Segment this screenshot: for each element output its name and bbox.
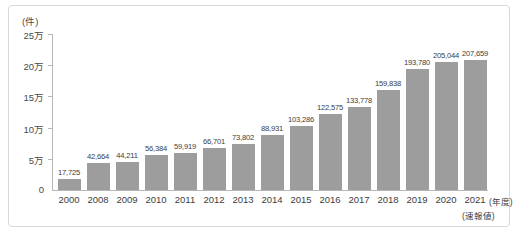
bar-group: 193,7802019 [402,0,433,247]
bar-group: 88,9312014 [257,0,288,247]
bar-group: 17,7252000 [54,0,85,247]
x-axis-tick-label: 2016 [319,194,340,205]
x-axis-tick-label: 2021 [464,194,485,205]
bar-group: 42,6642008 [83,0,114,247]
bar-value-label: 193,780 [404,58,430,67]
x-axis-tick-label: 2015 [290,194,311,205]
bar-value-label: 122,575 [317,103,343,112]
x-axis-tick-label: 2011 [175,194,195,205]
bar-value-label: 133,778 [346,96,372,105]
bar [348,107,371,190]
bar [464,60,487,190]
bar-value-label: 159,838 [375,79,401,88]
y-axis-tick-label: 0 [39,184,44,195]
bar [406,69,429,190]
bar-group: 122,5752016 [315,0,346,247]
bar [87,163,110,190]
y-axis-tick-label: 20万 [23,59,44,73]
bar-group: 44,2112009 [112,0,143,247]
bar-value-label: 59,919 [174,142,196,151]
bar-group: 103,2862015 [286,0,317,247]
bar-value-label: 56,384 [145,144,167,153]
y-axis-tick-label: 25万 [23,28,44,42]
bar [58,179,81,190]
x-axis-label: (年度) [489,195,513,207]
x-axis-note-preliminary: (速報値) [462,209,495,221]
x-axis-tick-label: 2020 [435,194,456,205]
bar-value-label: 207,659 [462,49,488,58]
bar [290,126,313,190]
x-axis-tick-label: 2019 [406,194,427,205]
bar-value-label: 42,664 [87,152,109,161]
y-axis-tick-label: 15万 [23,90,44,104]
y-axis-tick-label: 10万 [23,122,44,136]
bar-value-label: 88,931 [261,124,283,133]
bar [203,148,226,190]
bar-group: 73,8022013 [228,0,259,247]
bar-group: 66,7012012 [199,0,230,247]
bar-value-label: 66,701 [203,137,225,146]
bar-group: 159,8382018 [373,0,404,247]
bar-group: 59,9192011 [170,0,201,247]
bar [319,114,342,190]
x-axis-tick-label: 2014 [261,194,282,205]
bar-group: 56,3842010 [141,0,172,247]
x-axis-tick-label: 2008 [87,194,108,205]
bar [174,153,197,190]
bar-value-label: 44,211 [116,151,137,160]
bar [116,162,139,190]
chart-figure: (件) 05万10万15万20万25万 17,725200042,6642008… [0,0,531,247]
x-axis-tick-label: 2009 [116,194,137,205]
bar [377,90,400,190]
bar [435,62,458,190]
x-axis-tick-label: 2013 [232,194,253,205]
bar-value-label: 73,802 [232,133,254,142]
bar-value-label: 205,044 [433,51,459,60]
bar [145,155,168,190]
bar-group: 205,0442020 [431,0,462,247]
bar [232,144,255,190]
bar-value-label: 17,725 [58,168,80,177]
bar-value-label: 103,286 [288,115,314,124]
x-axis-tick-label: 2000 [58,194,79,205]
x-axis-tick-label: 2018 [377,194,398,205]
x-axis-tick-label: 2010 [145,194,166,205]
y-axis-unit-label: (件) [22,14,38,28]
x-axis-tick-label: 2017 [348,194,369,205]
y-axis-tick-label: 5万 [29,153,44,167]
bar-chart-plot: (件) 05万10万15万20万25万 17,725200042,6642008… [0,0,531,247]
bar [261,135,284,190]
x-axis-tick-label: 2012 [203,194,224,205]
bar-group: 133,7782017 [344,0,375,247]
